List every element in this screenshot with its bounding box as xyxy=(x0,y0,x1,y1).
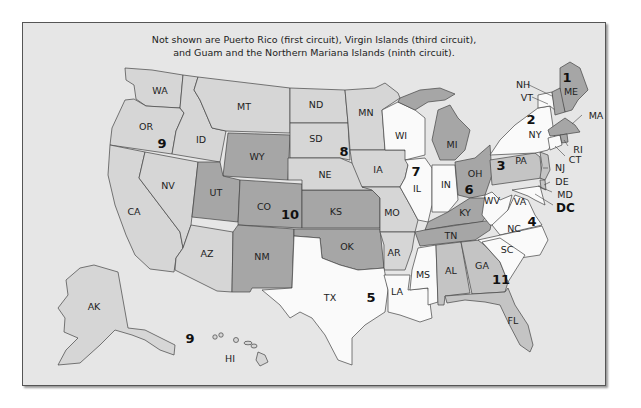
state-mi-lower xyxy=(432,105,470,160)
circuit-4: 4 xyxy=(527,214,536,229)
label-nc: NC xyxy=(507,223,521,234)
label-ky: KY xyxy=(459,207,471,218)
circuit-6: 6 xyxy=(464,182,473,197)
label-nm: NM xyxy=(254,251,269,262)
label-ga: GA xyxy=(475,260,489,271)
label-al: AL xyxy=(445,265,457,276)
label-ma: MA xyxy=(589,110,604,121)
label-fl: FL xyxy=(508,315,519,326)
label-nh: NH xyxy=(516,79,530,90)
circuit-10: 10 xyxy=(281,207,299,222)
label-wy: WY xyxy=(249,151,264,162)
label-la: LA xyxy=(391,286,404,297)
state-fl xyxy=(445,288,533,352)
label-mt: MT xyxy=(237,101,251,112)
state-hi xyxy=(213,333,268,366)
label-me: ME xyxy=(564,86,578,97)
label-hi: HI xyxy=(225,353,235,364)
label-mn: MN xyxy=(358,107,373,118)
circuit-3: 3 xyxy=(496,158,505,173)
label-dc: DC xyxy=(556,201,575,215)
circuit-1: 1 xyxy=(562,70,571,85)
circuit-11: 11 xyxy=(492,272,510,287)
label-ne: NE xyxy=(318,169,331,180)
label-wi: WI xyxy=(395,130,407,141)
label-ct: CT xyxy=(569,154,582,165)
label-ri: RI xyxy=(573,144,582,155)
state-ma xyxy=(548,118,580,136)
label-ak: AK xyxy=(88,301,101,312)
label-id: ID xyxy=(196,134,206,145)
label-mi: MI xyxy=(447,139,458,150)
state-ct xyxy=(548,135,562,150)
label-oh: OH xyxy=(468,168,483,179)
label-in: IN xyxy=(441,179,451,190)
state-ak xyxy=(58,265,175,365)
circuit-9-or: 9 xyxy=(157,136,166,151)
label-ny: NY xyxy=(529,129,542,140)
label-nd: ND xyxy=(309,99,323,110)
circuit-5: 5 xyxy=(366,290,375,305)
label-tn: TN xyxy=(444,230,458,241)
label-il: IL xyxy=(413,183,422,194)
label-vt: VT xyxy=(521,92,533,103)
label-md: MD xyxy=(557,189,573,200)
label-ok: OK xyxy=(340,241,354,252)
label-tx: TX xyxy=(323,292,337,303)
label-mo: MO xyxy=(384,207,400,218)
label-ms: MS xyxy=(416,269,430,280)
us-circuit-map: WA OR CA NV ID MT AZ AK HI WY UT CO NM K… xyxy=(0,0,641,408)
circuit-2: 2 xyxy=(526,112,535,127)
circuit-7: 7 xyxy=(411,164,420,179)
circuit-9-hi: 9 xyxy=(185,331,194,346)
label-ca: CA xyxy=(127,206,141,217)
label-sc: SC xyxy=(501,244,514,255)
label-ar: AR xyxy=(387,247,400,258)
label-az: AZ xyxy=(200,248,213,259)
state-nj xyxy=(540,152,550,180)
label-wa: WA xyxy=(152,85,168,96)
label-ut: UT xyxy=(210,187,223,198)
label-de: DE xyxy=(555,176,568,187)
label-nv: NV xyxy=(161,180,175,191)
label-ia: IA xyxy=(373,164,383,175)
state-ny xyxy=(490,106,555,155)
label-va: VA xyxy=(514,196,527,207)
label-pa: PA xyxy=(515,155,527,166)
label-sd: SD xyxy=(309,133,322,144)
label-nj: NJ xyxy=(555,162,565,173)
circuit-8: 8 xyxy=(339,144,348,159)
label-or: OR xyxy=(139,121,153,132)
label-wv: WV xyxy=(484,195,500,206)
label-co: CO xyxy=(257,201,271,212)
label-ks: KS xyxy=(330,206,342,217)
